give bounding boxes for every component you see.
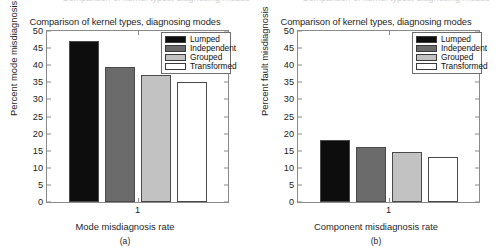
- y-tick-label-b: 40: [284, 60, 294, 70]
- x-tick-mark-a: [138, 198, 139, 202]
- y-tick-mark-a: [47, 133, 51, 134]
- legend-swatch-lumped: [165, 36, 186, 43]
- legend-label-transformed: Transformed: [190, 62, 237, 71]
- y-tick-mark-right-b: [475, 184, 479, 185]
- y-tick-mark-right-a: [224, 184, 228, 185]
- y-tick-mark-b: [298, 99, 302, 100]
- y-tick-label-a: 50: [33, 26, 43, 36]
- chart-panel-b: Comparison of kernel types, diagnosing m…: [251, 0, 501, 249]
- y-tick-mark-a: [47, 48, 51, 49]
- y-tick-label-b: 45: [284, 43, 294, 53]
- y-tick-mark-a: [47, 82, 51, 83]
- x-tick-mark-a: [138, 31, 139, 35]
- legend-swatch-transformed: [165, 63, 186, 70]
- y-tick-mark-a: [47, 202, 51, 203]
- chart-panel-a: Comparison of kernel types, diagnosing m…: [0, 0, 250, 249]
- y-tick-mark-b: [298, 184, 302, 185]
- y-tick-label-a: 45: [33, 43, 43, 53]
- bar-b-transformed: [428, 157, 458, 202]
- figure-container: Comparison of kernel types, diagnosing m…: [0, 0, 501, 249]
- panel-letter-a: (a): [0, 236, 250, 246]
- y-tick-label-a: 25: [33, 112, 43, 122]
- legend-swatch-independent: [416, 45, 437, 52]
- y-tick-label-b: 15: [284, 146, 294, 156]
- y-tick-mark-right-b: [475, 99, 479, 100]
- legend-swatch-lumped: [416, 36, 437, 43]
- x-tick-mark-b: [389, 31, 390, 35]
- legend-swatch-transformed: [416, 63, 437, 70]
- y-tick-label-b: 25: [284, 112, 294, 122]
- y-tick-mark-right-b: [475, 202, 479, 203]
- y-tick-mark-a: [47, 167, 51, 168]
- y-tick-label-a: 20: [33, 129, 43, 139]
- y-tick-mark-b: [298, 31, 302, 32]
- legend-row-b: Transformed: [416, 62, 478, 71]
- y-tick-label-a: 35: [33, 77, 43, 87]
- y-tick-mark-right-a: [224, 116, 228, 117]
- x-tick-mark-b: [389, 198, 390, 202]
- y-tick-mark-b: [298, 167, 302, 168]
- y-tick-mark-a: [47, 65, 51, 66]
- y-tick-mark-right-a: [224, 82, 228, 83]
- y-tick-label-a: 40: [33, 60, 43, 70]
- y-tick-mark-a: [47, 31, 51, 32]
- y-tick-mark-b: [298, 82, 302, 83]
- y-tick-label-b: 0: [289, 197, 294, 207]
- x-axis-label-a: Mode misdiagnosis rate: [0, 221, 250, 232]
- y-tick-mark-right-a: [224, 202, 228, 203]
- bar-b-independent: [356, 147, 386, 202]
- legend-a: LumpedIndependentGroupedTransformed: [161, 32, 231, 74]
- legend-b: LumpedIndependentGroupedTransformed: [412, 32, 482, 74]
- y-tick-label-b: 10: [284, 163, 294, 173]
- y-tick-label-b: 35: [284, 77, 294, 87]
- y-tick-label-b: 5: [289, 180, 294, 190]
- bar-a-lumped: [69, 41, 99, 202]
- y-tick-mark-right-b: [475, 82, 479, 83]
- y-tick-mark-a: [47, 150, 51, 151]
- legend-label-transformed: Transformed: [441, 62, 488, 71]
- y-tick-mark-a: [47, 184, 51, 185]
- x-tick-label-a: 1: [135, 205, 140, 215]
- y-tick-mark-right-a: [224, 167, 228, 168]
- y-tick-mark-b: [298, 150, 302, 151]
- y-tick-label-a: 10: [33, 163, 43, 173]
- y-axis-label-a: Percent mode misdiagnosis: [8, 1, 19, 116]
- x-tick-label-b: 1: [386, 205, 391, 215]
- bar-a-grouped: [141, 75, 171, 202]
- legend-row-a: Transformed: [165, 62, 227, 71]
- y-tick-mark-right-b: [475, 133, 479, 134]
- y-tick-label-a: 0: [38, 197, 43, 207]
- bar-b-grouped: [392, 152, 422, 202]
- legend-swatch-grouped: [165, 54, 186, 61]
- y-tick-mark-right-a: [224, 99, 228, 100]
- y-tick-mark-right-b: [475, 167, 479, 168]
- y-tick-label-a: 15: [33, 146, 43, 156]
- y-tick-mark-right-b: [475, 150, 479, 151]
- y-tick-mark-a: [47, 116, 51, 117]
- y-tick-label-a: 5: [38, 180, 43, 190]
- y-tick-mark-b: [298, 133, 302, 134]
- bar-a-transformed: [177, 82, 207, 202]
- y-tick-label-b: 20: [284, 129, 294, 139]
- y-axis-label-b: Percent fault misdiagnosis: [259, 7, 270, 116]
- bar-b-lumped: [320, 140, 350, 202]
- legend-swatch-independent: [165, 45, 186, 52]
- bar-a-independent: [105, 67, 135, 202]
- y-tick-mark-b: [298, 202, 302, 203]
- y-tick-mark-right-b: [475, 116, 479, 117]
- y-tick-label-a: 30: [33, 94, 43, 104]
- y-tick-mark-b: [298, 48, 302, 49]
- y-tick-mark-right-a: [224, 150, 228, 151]
- y-tick-mark-b: [298, 65, 302, 66]
- panel-letter-b: (b): [251, 236, 501, 246]
- legend-swatch-grouped: [416, 54, 437, 61]
- y-tick-mark-b: [298, 116, 302, 117]
- y-tick-mark-a: [47, 99, 51, 100]
- y-tick-label-b: 50: [284, 26, 294, 36]
- y-tick-mark-right-a: [224, 133, 228, 134]
- y-tick-label-b: 30: [284, 94, 294, 104]
- x-axis-label-b: Component misdiagnosis rate: [251, 221, 501, 232]
